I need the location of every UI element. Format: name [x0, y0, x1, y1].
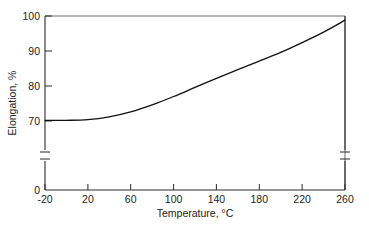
x-tick-label--20: -20 [37, 193, 52, 205]
x-tick-label-140: 140 [208, 193, 226, 205]
y-tick-label-80: 80 [28, 80, 40, 92]
plot-frame [45, 16, 345, 190]
y-tick-label-100: 100 [22, 10, 40, 22]
elongation-curve [45, 20, 345, 120]
x-tick-label-260: 260 [336, 193, 354, 205]
x-tick-label-100: 100 [165, 193, 183, 205]
y-tick-label-70: 70 [28, 115, 40, 127]
y-tick-label-90: 90 [28, 45, 40, 57]
elongation-temperature-line-chart: 100 90 80 70 0 -20 20 60 100 140 180 220… [0, 0, 369, 232]
x-tick-label-180: 180 [251, 193, 269, 205]
x-tick-label-60: 60 [125, 193, 137, 205]
y-axis-title: Elongation, % [6, 71, 18, 136]
x-tick-label-220: 220 [293, 193, 311, 205]
x-tick-label-20: 20 [82, 193, 94, 205]
x-axis-title: Temperature, °C [157, 207, 234, 219]
chart-figure: 100 90 80 70 0 -20 20 60 100 140 180 220… [0, 0, 369, 232]
